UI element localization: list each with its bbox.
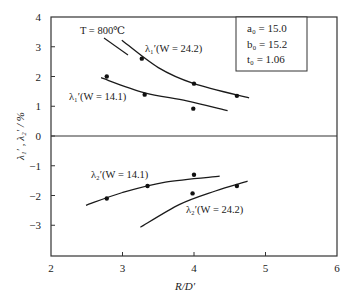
parameter-legend-box: a₀ = 15.0 b₀ = 15.2 t₀ = 1.06: [236, 17, 307, 71]
y-tick-label: 4: [36, 11, 42, 23]
x-axis-title: R/D′: [174, 280, 196, 292]
axis-ticks: [51, 47, 266, 256]
data-point: [235, 94, 239, 98]
x-tick-label: 2: [48, 262, 54, 274]
temperature-annotation: T = 800℃: [80, 25, 125, 36]
data-point: [191, 106, 195, 110]
fit-curve-series-2: [86, 176, 220, 205]
series-label-lambda1-w141: λ₁′(W = 14.1): [69, 91, 127, 103]
data-point: [145, 184, 149, 188]
data-point: [105, 74, 109, 78]
y-tick-label: −3: [29, 219, 41, 231]
y-tick-label: 0: [36, 130, 42, 142]
chart: 2345643210−1−2−3 T = 800℃ λ₁′(W = 24.2) …: [0, 0, 351, 300]
y-tick-label: 3: [36, 41, 42, 53]
legend-b0: b₀ = 15.2: [247, 38, 287, 50]
x-tick-label: 4: [191, 262, 197, 274]
legend-a0: a₀ = 15.0: [247, 22, 287, 34]
y-tick-label: 1: [36, 100, 42, 112]
y-tick-label: 2: [36, 71, 42, 83]
data-point: [105, 196, 109, 200]
x-tick-label: 5: [263, 262, 269, 274]
x-tick-label: 3: [120, 262, 126, 274]
series-label-lambda1-w242: λ₁′(W = 24.2): [145, 43, 203, 55]
data-point: [142, 92, 146, 96]
series-label-lambda2-w141: λ₂′(W = 14.1): [91, 169, 149, 181]
fit-curves: [86, 38, 249, 227]
data-point: [192, 81, 196, 85]
data-point: [190, 191, 194, 195]
y-axis-title: λ₁′ , λ₂′ / %: [14, 112, 26, 161]
x-tick-label: 6: [334, 262, 340, 274]
legend-t0: t₀ = 1.06: [247, 53, 285, 65]
data-point: [235, 184, 239, 188]
y-tick-label: −1: [29, 160, 41, 172]
data-point: [192, 172, 196, 176]
series-label-lambda2-w242: λ₂′(W = 24.2): [186, 204, 244, 216]
annotation-pointer-line: [104, 38, 128, 55]
y-tick-label: −2: [29, 190, 41, 202]
data-point: [140, 56, 144, 60]
